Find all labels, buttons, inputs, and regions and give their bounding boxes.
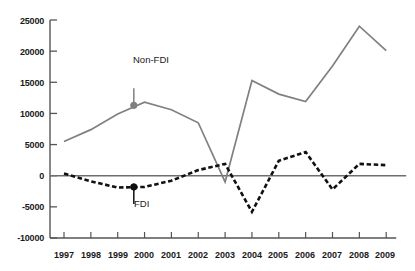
line-chart: 25000 20000 15000 10000 5000 0 -5000 -10… [0,0,415,271]
fdi-series-label: FDI [134,198,149,209]
x-tick-label-2009: 2009 [368,250,402,260]
y-tick-label-minus-5000: -5000 [2,202,44,212]
annotation-marker-fdi [131,184,137,190]
y-tick-label-15000: 15000 [2,78,44,88]
series-line-nonfdi [64,26,386,182]
y-tick-label-10000: 10000 [2,109,44,119]
nonfdi-series-label: Non-FDI [133,54,169,65]
chart-plot-area [0,0,415,271]
annotation-marker-nonfdi [131,102,137,108]
y-tick-label-0: 0 [2,171,44,181]
y-tick-label-20000: 20000 [2,47,44,57]
y-tick-label-25000: 25000 [2,16,44,26]
y-tick-label-minus-10000: -10000 [0,233,44,243]
y-tick-label-5000: 5000 [2,140,44,150]
